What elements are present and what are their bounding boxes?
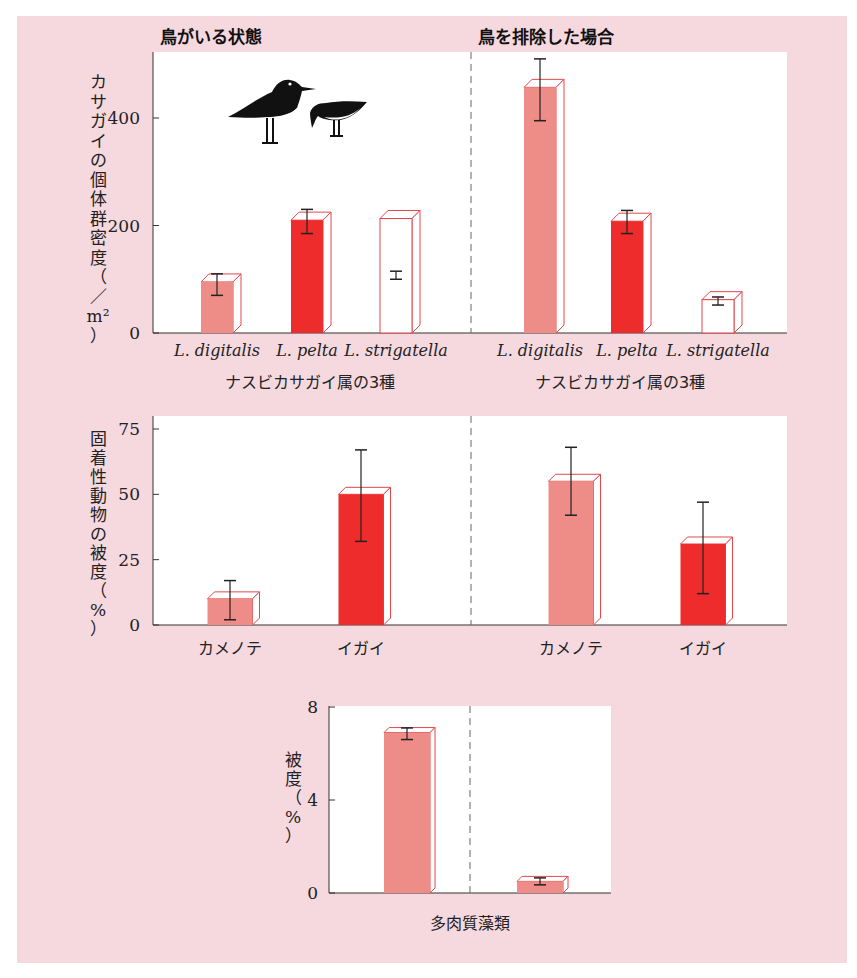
figure: 鳥がいる状態鳥を排除した場合0200400カサガイの個体群密度（／m²）L. d… bbox=[0, 0, 857, 978]
bar-top-face bbox=[681, 537, 733, 544]
y-axis-label-char: 個 bbox=[90, 170, 107, 190]
y-tick-label: 50 bbox=[118, 484, 140, 504]
chart-2: 0255075固着性動物の被度（%）カメノテイガイカメノテイガイ bbox=[90, 416, 788, 658]
bar bbox=[380, 211, 420, 333]
bar-top-face bbox=[339, 487, 391, 494]
y-axis-label-char: % bbox=[90, 600, 106, 620]
y-axis-label-char: の bbox=[90, 524, 107, 544]
plot-area bbox=[153, 52, 787, 333]
category-label: カメノテ bbox=[539, 639, 603, 658]
y-axis-label-char: ） bbox=[90, 619, 107, 639]
y-axis-label-char: カ bbox=[90, 72, 107, 92]
y-axis-label-char: （ bbox=[90, 581, 107, 601]
y-axis-label-char: 動 bbox=[90, 486, 107, 506]
bar-side-face bbox=[323, 212, 331, 333]
bar bbox=[517, 876, 568, 893]
y-axis-label-char: （ bbox=[285, 788, 302, 808]
y-tick-label: 25 bbox=[118, 550, 140, 570]
y-axis-label-char: サ bbox=[90, 92, 107, 112]
y-axis-label-char: 被 bbox=[90, 543, 107, 563]
category-label: イガイ bbox=[679, 639, 727, 658]
y-axis-label-char: 度 bbox=[90, 248, 107, 268]
bar-side-face bbox=[430, 728, 435, 893]
bar-side-face bbox=[643, 213, 651, 333]
bar-side-face bbox=[726, 537, 733, 625]
y-tick-label: 400 bbox=[108, 108, 140, 128]
y-axis-label-char: % bbox=[285, 807, 301, 827]
header-birds-excluded: 鳥を排除した場合 bbox=[478, 27, 615, 47]
y-axis-label-char: （ bbox=[90, 267, 107, 287]
y-axis-label-char: 被 bbox=[285, 750, 302, 770]
bar bbox=[524, 59, 564, 333]
y-axis-label-char: 度 bbox=[90, 562, 107, 582]
y-axis-label-char: 群 bbox=[90, 209, 107, 229]
chart-1: 0200400カサガイの個体群密度（／m²）L. digitalisL. pel… bbox=[87, 52, 787, 392]
y-axis-label-char: の bbox=[90, 150, 107, 170]
y-tick-label: 0 bbox=[129, 323, 140, 343]
bar bbox=[291, 209, 331, 333]
bar-side-face bbox=[556, 79, 564, 333]
y-tick-label: 4 bbox=[307, 790, 318, 810]
header-birds-present: 鳥がいる状態 bbox=[160, 27, 262, 47]
y-axis-label-char: 物 bbox=[90, 505, 107, 525]
y-tick-label: 75 bbox=[118, 419, 140, 439]
category-label: L. pelta bbox=[275, 341, 338, 360]
bar-side-face bbox=[734, 292, 742, 333]
y-axis-label-char: ） bbox=[285, 826, 302, 846]
y-axis-label-char: ／ bbox=[90, 287, 107, 307]
bar bbox=[549, 447, 601, 625]
bar-front-face bbox=[524, 87, 556, 333]
x-axis-label: 多肉質藻類 bbox=[430, 914, 510, 933]
y-tick-label: 0 bbox=[307, 883, 318, 903]
bar bbox=[384, 728, 435, 893]
category-label: L. strigatella bbox=[665, 341, 770, 360]
bar bbox=[201, 274, 241, 333]
bar-front-face bbox=[291, 220, 323, 333]
y-axis-label-char: 固 bbox=[90, 429, 107, 449]
y-axis-label-char: ガ bbox=[90, 111, 107, 131]
x-axis-label: ナスビカサガイ属の3種 bbox=[225, 373, 395, 392]
bar-top-face bbox=[549, 474, 601, 481]
category-label: L. pelta bbox=[595, 341, 658, 360]
x-axis-label: ナスビカサガイ属の3種 bbox=[535, 373, 705, 392]
y-axis-label-char: 密 bbox=[90, 228, 107, 248]
category-label: カメノテ bbox=[198, 639, 262, 658]
y-axis-label-char: 着 bbox=[90, 448, 107, 468]
bar bbox=[702, 292, 742, 333]
category-label: L. digitalis bbox=[496, 341, 583, 360]
chart-3: 048被度（%）多肉質藻類 bbox=[285, 697, 612, 933]
y-axis-label-char: イ bbox=[90, 131, 107, 151]
bar-side-face bbox=[594, 474, 601, 625]
bar bbox=[611, 210, 651, 333]
bar-front-face bbox=[384, 733, 430, 893]
bar-side-face bbox=[412, 211, 420, 333]
y-axis-label-char: m² bbox=[87, 306, 110, 326]
y-tick-label: 0 bbox=[129, 615, 140, 635]
y-tick-label: 200 bbox=[108, 216, 140, 236]
bar-side-face bbox=[384, 487, 391, 625]
y-axis-label-char: 体 bbox=[90, 189, 107, 209]
bar-side-face bbox=[233, 274, 241, 333]
y-tick-label: 8 bbox=[307, 697, 318, 717]
y-axis-label-char: 度 bbox=[285, 769, 302, 789]
bar-front-face bbox=[611, 221, 643, 333]
y-axis-label-char: ） bbox=[90, 326, 107, 346]
category-label: L. strigatella bbox=[343, 341, 448, 360]
bar-top-face bbox=[208, 592, 260, 599]
category-label: L. digitalis bbox=[173, 341, 260, 360]
category-label: イガイ bbox=[337, 639, 385, 658]
y-axis-label-char: 性 bbox=[90, 467, 107, 487]
bar-top-face bbox=[517, 876, 568, 881]
